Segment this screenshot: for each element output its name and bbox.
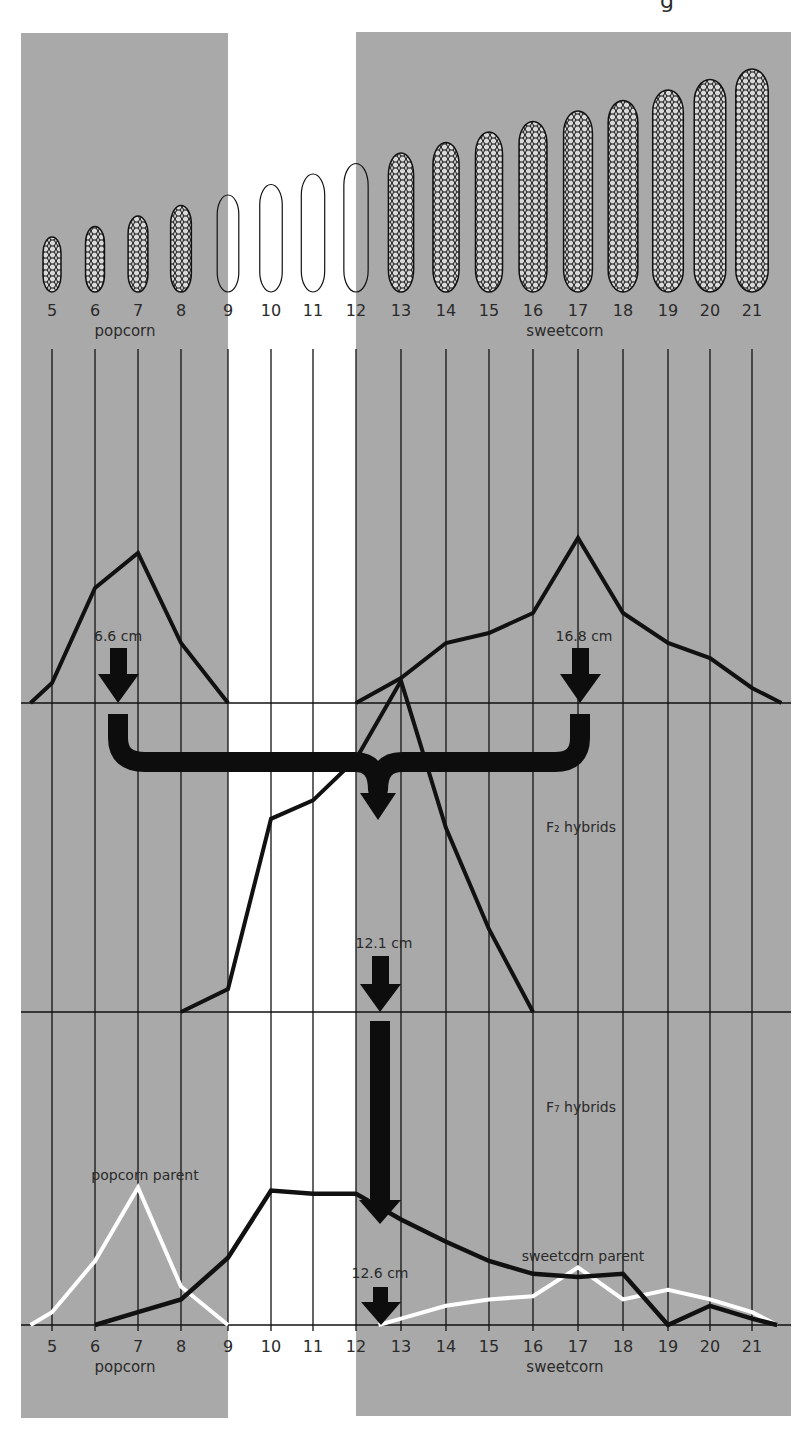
sweetcorn-group-label-bottom: sweetcorn (526, 1358, 603, 1376)
corn-ear-6 (86, 227, 105, 293)
popcorn-parent-label: popcorn parent (91, 1167, 199, 1183)
top-tick-20: 20 (700, 301, 720, 320)
bottom-tick-12: 12 (346, 1337, 366, 1356)
corn-ear-7 (128, 216, 148, 292)
corn-ear-15 (476, 132, 503, 292)
bottom-tick-15: 15 (479, 1337, 499, 1356)
top-tick-14: 14 (436, 301, 456, 320)
corn-ear-20 (694, 80, 726, 293)
sweetcorn-parent-label: sweetcorn parent (522, 1248, 645, 1264)
popcorn-group-label-bottom: popcorn (94, 1358, 155, 1376)
top-tick-19: 19 (658, 301, 678, 320)
corn-ear-19 (653, 90, 684, 292)
top-tick-15: 15 (479, 301, 499, 320)
bottom-tick-8: 8 (176, 1337, 186, 1356)
f2-mean-label: 12.1 cm (356, 935, 413, 951)
top-tick-21: 21 (742, 301, 762, 320)
top-tick-7: 7 (133, 301, 143, 320)
sweetcorn-group-label-top: sweetcorn (526, 322, 603, 340)
top-tick-17: 17 (568, 301, 588, 320)
f7-mean-label: 12.6 cm (352, 1265, 409, 1281)
bottom-tick-5: 5 (47, 1337, 57, 1356)
corn-ear-18 (608, 101, 638, 293)
corn-ear-5 (43, 237, 61, 292)
top-tick-9: 9 (223, 301, 233, 320)
f7-title: F₇ hybrids (546, 1099, 616, 1115)
top-tick-13: 13 (391, 301, 411, 320)
bottom-tick-17: 17 (568, 1337, 588, 1356)
bottom-tick-6: 6 (90, 1337, 100, 1356)
sweetcorn-mean-label: 16.8 cm (556, 628, 613, 644)
corn-ear-21 (736, 69, 768, 292)
top-tick-18: 18 (613, 301, 633, 320)
corn-ear-16 (519, 122, 547, 293)
corn-ear-length-figure: g 56789101112131415161718192021 popcorn … (0, 0, 806, 1442)
bottom-tick-20: 20 (700, 1337, 720, 1356)
bottom-tick-19: 19 (658, 1337, 678, 1356)
bottom-tick-11: 11 (303, 1337, 323, 1356)
bottom-tick-9: 9 (223, 1337, 233, 1356)
bottom-tick-18: 18 (613, 1337, 633, 1356)
corn-ear-17 (564, 111, 593, 292)
popcorn-group-label-top: popcorn (94, 322, 155, 340)
top-tick-5: 5 (47, 301, 57, 320)
top-tick-12: 12 (346, 301, 366, 320)
corn-ear-8 (171, 206, 192, 293)
bottom-tick-7: 7 (133, 1337, 143, 1356)
top-tick-6: 6 (90, 301, 100, 320)
popcorn-mean-label: 6.6 cm (94, 628, 142, 644)
header-fragment: g (660, 0, 674, 13)
bottom-tick-16: 16 (523, 1337, 543, 1356)
bottom-tick-14: 14 (436, 1337, 456, 1356)
corn-ear-14 (433, 143, 459, 293)
top-tick-16: 16 (523, 301, 543, 320)
bottom-tick-21: 21 (742, 1337, 762, 1356)
f2-title: F₂ hybrids (546, 819, 616, 835)
top-tick-10: 10 (261, 301, 281, 320)
top-tick-8: 8 (176, 301, 186, 320)
top-tick-11: 11 (303, 301, 323, 320)
bottom-tick-10: 10 (261, 1337, 281, 1356)
corn-ear-13 (388, 153, 413, 292)
bottom-tick-13: 13 (391, 1337, 411, 1356)
ear-outline-10 (260, 185, 283, 293)
ear-outline-11 (301, 174, 324, 292)
